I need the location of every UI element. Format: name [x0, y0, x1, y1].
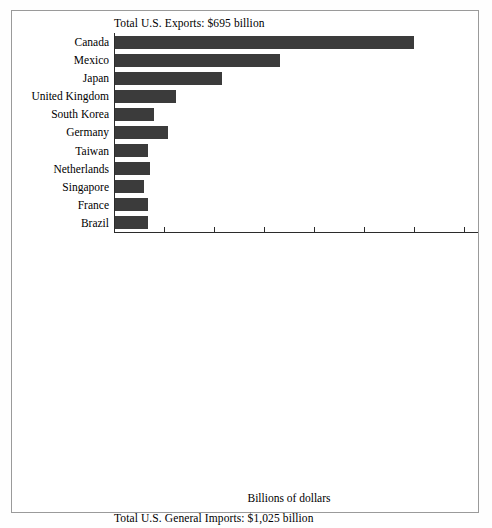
bar [114, 72, 222, 85]
bar-row: Singapore [114, 178, 464, 196]
category-label: France [78, 199, 109, 211]
category-label: Netherlands [53, 163, 109, 175]
exports-bar-rows: CanadaMexicoJapanUnited KingdomSouth Kor… [114, 33, 464, 232]
exports-chart-title: Total U.S. Exports: $695 billion [114, 17, 265, 29]
exports-panel: Total U.S. Exports: $695 billion CanadaM… [0, 0, 492, 248]
category-label: United Kingdom [31, 90, 109, 102]
bar-row: South Korea [114, 105, 464, 123]
category-label: Germany [66, 126, 109, 138]
category-label: Mexico [74, 54, 109, 66]
bar [114, 126, 168, 139]
bar-row: United Kingdom [114, 87, 464, 105]
bar-row: France [114, 196, 464, 214]
bar-row: Netherlands [114, 160, 464, 178]
bar [114, 216, 148, 229]
bar [114, 144, 148, 157]
imports-panel: Total U.S. General Imports: $1,025 billi… [0, 252, 492, 514]
bar [114, 36, 414, 49]
category-label: Singapore [62, 181, 109, 193]
bar [114, 198, 148, 211]
x-tick [364, 227, 365, 232]
bar [114, 180, 144, 193]
exports-y-axis [114, 33, 115, 232]
exports-plot-area: CanadaMexicoJapanUnited KingdomSouth Kor… [114, 33, 464, 232]
bar-row: Taiwan [114, 141, 464, 159]
bar-row: Canada [114, 33, 464, 51]
bar [114, 54, 280, 67]
category-label: South Korea [51, 108, 109, 120]
x-tick [314, 227, 315, 232]
category-label: Taiwan [75, 145, 109, 157]
exports-x-axis [114, 232, 478, 233]
bar-row: Japan [114, 69, 464, 87]
x-tick [414, 227, 415, 232]
x-tick [264, 227, 265, 232]
category-label: Brazil [81, 217, 109, 229]
bar-row: Germany [114, 123, 464, 141]
imports-chart-title: Total U.S. General Imports: $1,025 billi… [114, 512, 314, 524]
x-tick [464, 227, 465, 232]
x-tick [164, 227, 165, 232]
x-axis-label: Billions of dollars [114, 492, 464, 504]
bar [114, 90, 176, 103]
bar-row: Brazil [114, 214, 464, 232]
category-label: Japan [83, 72, 109, 84]
bar [114, 162, 150, 175]
bar-row: Mexico [114, 51, 464, 69]
bar [114, 108, 154, 121]
figure-canvas: Total U.S. Exports: $695 billion CanadaM… [0, 0, 492, 528]
category-label: Canada [75, 36, 109, 48]
x-tick [114, 227, 115, 232]
x-tick [214, 227, 215, 232]
